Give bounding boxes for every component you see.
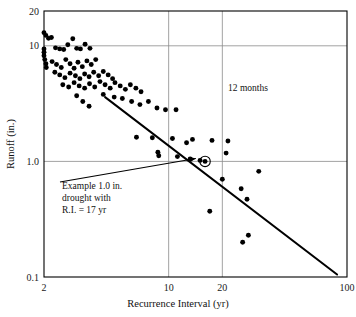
y-axis-title: Runoff (in.) bbox=[5, 119, 17, 169]
duration-note-label: 12 months bbox=[228, 83, 268, 93]
scatter-plot-svg: 21020100 0.11.01020 Recurrence Interval … bbox=[0, 0, 356, 317]
x-tick-20: 20 bbox=[217, 282, 227, 293]
callout-line-3: R.I. = 17 yr bbox=[62, 205, 107, 215]
x-tick-100: 100 bbox=[340, 282, 355, 293]
callout-line-1: Example 1.0 in. bbox=[62, 181, 122, 191]
x-tick-10: 10 bbox=[164, 282, 174, 293]
chart-figure: 21020100 0.11.01020 Recurrence Interval … bbox=[0, 0, 356, 317]
callout-line-2: drought with bbox=[62, 193, 111, 203]
x-tick-2: 2 bbox=[42, 282, 47, 293]
y-tick-20: 20 bbox=[29, 6, 39, 17]
y-tick-0.1: 0.1 bbox=[27, 272, 40, 283]
y-tick-1.0: 1.0 bbox=[27, 156, 40, 167]
y-tick-10: 10 bbox=[29, 40, 39, 51]
x-axis-title: Recurrence Interval (yr) bbox=[127, 298, 229, 310]
